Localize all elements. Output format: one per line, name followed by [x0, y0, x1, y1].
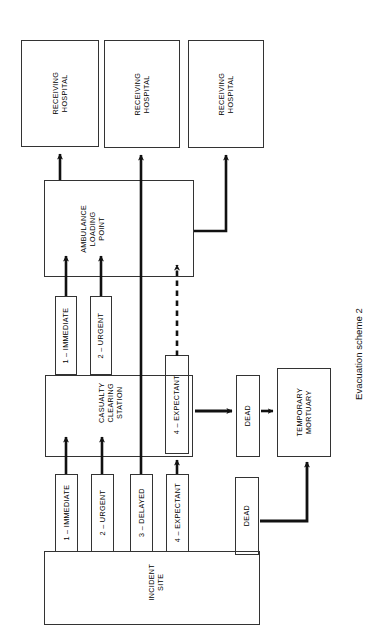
node-temporary-mortuary: TEMPORARYMORTUARY: [277, 368, 331, 457]
node-receiving-hospital-3: RECEIVINGHOSPITAL: [188, 40, 264, 148]
edge-site-dead-to-mortuary: [260, 462, 307, 521]
dead-site-label: DEAD: [242, 505, 251, 526]
node-site-priority-1-immediate: 1 – IMMEDIATE: [55, 474, 78, 552]
node-receiving-hospital-2: RECEIVINGHOSPITAL: [104, 40, 180, 148]
diagram-canvas: RECEIVINGHOSPITAL RECEIVINGHOSPITAL RECE…: [0, 0, 372, 642]
ccs-priority-1-label: 1 – IMMEDIATE: [61, 308, 70, 364]
node-site-priority-3-delayed: 3 – DELAYED: [130, 474, 153, 552]
edge-alp-to-hospital-3: [194, 155, 226, 231]
casualty-clearing-station-label: CASUALTYCLEARINGSTATION: [97, 375, 125, 431]
node-ambulance-loading-point: AMBULANCELOADINGPOINT: [44, 180, 194, 277]
node-site-priority-4-expectant: 4 – EXPECTANT: [166, 474, 189, 552]
temporary-mortuary-label: TEMPORARYMORTUARY: [295, 388, 313, 437]
node-dead-site: DEAD: [235, 477, 259, 555]
site-priority-1-label: 1 – IMMEDIATE: [62, 485, 71, 541]
ambulance-loading-point-label: AMBULANCELOADINGPOINT: [79, 205, 107, 253]
ccs-priority-2-label: 2 – URGENT: [96, 313, 105, 359]
site-priority-4-label: 4 – EXPECTANT: [173, 483, 182, 542]
receiving-hospital-2-label: RECEIVINGHOSPITAL: [133, 73, 151, 116]
incident-site-label: INCIDENTSITE: [147, 554, 165, 610]
receiving-hospital-1-label: RECEIVINGHOSPITAL: [51, 72, 69, 115]
site-priority-3-label: 3 – DELAYED: [137, 489, 146, 538]
node-ccs-priority-1-immediate: 1 – IMMEDIATE: [55, 296, 77, 375]
node-receiving-hospital-1: RECEIVINGHOSPITAL: [21, 40, 99, 147]
node-ccs-priority-2-urgent: 2 – URGENT: [90, 296, 112, 375]
dead-ccs-label: DEAD: [243, 405, 252, 426]
receiving-hospital-3-label: RECEIVINGHOSPITAL: [217, 73, 235, 116]
site-priority-2-label: 2 – URGENT: [98, 490, 107, 536]
node-site-priority-2-urgent: 2 – URGENT: [91, 474, 114, 552]
node-dead-ccs: DEAD: [236, 375, 260, 457]
figure-caption: Evacuation scheme 2: [353, 308, 364, 400]
